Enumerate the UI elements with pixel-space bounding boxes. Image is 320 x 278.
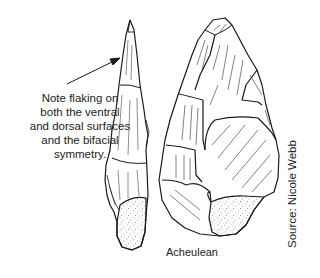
face-view-tool bbox=[159, 18, 279, 236]
annotation-line: symmetry. bbox=[20, 147, 140, 161]
source-credit: Source: Nicole Webb bbox=[286, 140, 298, 248]
annotation-line: and dorsal surfaces bbox=[20, 119, 140, 133]
arrow-icon bbox=[67, 58, 120, 84]
annotation-line: Note flaking on bbox=[20, 91, 140, 105]
annotation-line: and the bifacial bbox=[20, 133, 140, 147]
annotation-text: Note flaking on both the ventral and dor… bbox=[20, 91, 140, 161]
annotation-line: both the ventral bbox=[20, 105, 140, 119]
figure-caption: Acheulean bbox=[166, 246, 218, 258]
